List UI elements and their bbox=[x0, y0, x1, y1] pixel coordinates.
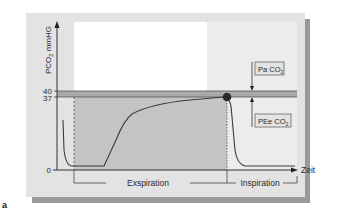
x-axis-label: Zeit bbox=[301, 165, 316, 175]
tick-label-37: 37 bbox=[43, 94, 52, 103]
panel-shadow-bottom bbox=[32, 196, 310, 203]
peeco2-label: PEe CO2 bbox=[258, 117, 289, 127]
plot-white-area bbox=[74, 22, 207, 92]
end-tidal-point bbox=[223, 93, 232, 102]
paco2-label: Pa CO2 bbox=[258, 65, 284, 75]
paco2-peeco2-band bbox=[57, 91, 297, 97]
inspiration-label: Inspiration bbox=[240, 178, 279, 188]
capnogram-figure: 40 37 0 PCO2 mmHG Zeit Exspiration Inspi… bbox=[0, 0, 347, 210]
tick-label-0: 0 bbox=[47, 166, 52, 175]
y-axis-label: PCO2 mmHG bbox=[44, 26, 54, 74]
expiration-area bbox=[74, 97, 227, 170]
figure-label: a bbox=[2, 200, 7, 210]
expiration-label: Exspiration bbox=[127, 178, 169, 188]
